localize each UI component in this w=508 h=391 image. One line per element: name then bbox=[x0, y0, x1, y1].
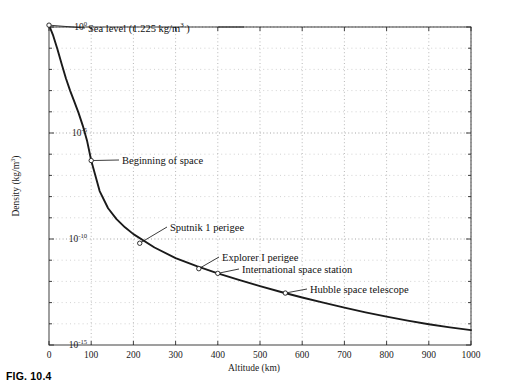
y-tick-label: 10-5 bbox=[43, 128, 87, 138]
y-tick-label: 100 bbox=[43, 22, 87, 32]
x-tick-label: 600 bbox=[295, 350, 309, 360]
x-tick-label: 500 bbox=[253, 350, 267, 360]
x-tick-label: 800 bbox=[379, 350, 393, 360]
y-axis-title: Density (kg/m3) bbox=[11, 155, 21, 216]
annotation-sputnik-1-perigee: Sputnik 1 perigee bbox=[170, 222, 244, 233]
annotation-hubble-space-telescope: Hubble space telescope bbox=[310, 284, 409, 295]
x-tick-label: 200 bbox=[126, 350, 140, 360]
x-tick-label: 300 bbox=[168, 350, 182, 360]
y-tick-label: 10-10 bbox=[43, 234, 87, 244]
annotation-explorer-i-perigee: Explorer I perigee bbox=[222, 252, 298, 263]
figure-container: 0100200300400500600700800900100010010-51… bbox=[0, 0, 508, 391]
x-tick-label: 100 bbox=[84, 350, 98, 360]
x-tick-label: 900 bbox=[422, 350, 436, 360]
x-tick-label: 0 bbox=[47, 350, 52, 360]
minor-gridlines bbox=[49, 27, 471, 345]
y-tick-label: 10-15 bbox=[43, 340, 87, 350]
annotation-sea-level: Sea level (1.225 kg/m3 ) bbox=[88, 23, 190, 34]
x-tick-label: 700 bbox=[337, 350, 351, 360]
x-tick-label: 400 bbox=[211, 350, 225, 360]
figure-caption: FIG. 10.4 bbox=[6, 370, 52, 382]
x-axis-title: Altitude (km) bbox=[228, 363, 280, 373]
density-altitude-chart bbox=[0, 0, 508, 391]
x-tick-label: 1000 bbox=[462, 350, 481, 360]
annotation-beginning-of-space: Beginning of space bbox=[122, 155, 203, 166]
annotation-international-space-station: International space station bbox=[242, 264, 352, 275]
